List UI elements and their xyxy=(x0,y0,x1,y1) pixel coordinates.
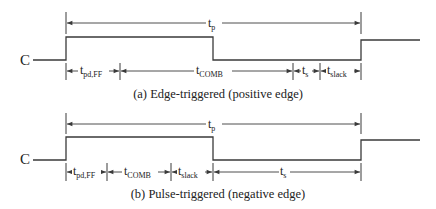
signal-label-c: C xyxy=(20,52,30,68)
signal-label-c: C xyxy=(20,151,30,167)
panel-b-pulse-triggered: tp C tpd,FF tCOMB tslack ts (b) Pulse-tr… xyxy=(20,113,420,201)
clock-waveform xyxy=(33,37,420,60)
caption-b: (b) Pulse-triggered (negative edge) xyxy=(131,187,306,201)
clock-waveform xyxy=(33,137,420,160)
caption-a: (a) Edge-triggered (positive edge) xyxy=(133,87,303,101)
panel-a-edge-triggered: tp C tpd,FF tCOMB ts tslack (a) Edge-tri… xyxy=(20,12,420,101)
timing-diagram: tp C tpd,FF tCOMB ts tslack (a) Edge-tri… xyxy=(0,0,436,209)
